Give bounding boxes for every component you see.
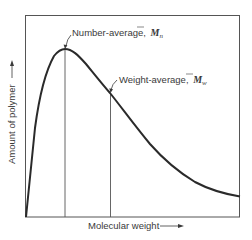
chart-svg: Number-average, Mn Weight-average, Mw Mo… <box>0 0 252 240</box>
mn-annotation: Number-average, Mn <box>72 27 163 40</box>
x-axis-arrow-icon <box>178 224 184 228</box>
y-axis-label: Amount of polymer <box>6 84 17 164</box>
mw-annotation: Weight-average, Mw <box>119 74 207 87</box>
mn-leader-line <box>66 35 71 46</box>
molecular-weight-distribution-chart: Number-average, Mn Weight-average, Mw Mo… <box>0 0 252 240</box>
x-axis-label: Molecular weight <box>88 220 160 231</box>
mw-leader-line <box>111 80 117 90</box>
y-axis-arrow-icon <box>10 60 14 66</box>
